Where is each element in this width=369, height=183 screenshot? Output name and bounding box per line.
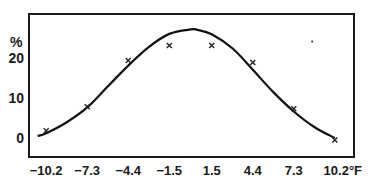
line-chart: 01020 % −10.2−7.3−4.4−1.51.54.47.310.2°F — [0, 0, 369, 183]
y-tick-label: 20 — [8, 50, 24, 66]
x-axis-ticks: −10.2−7.3−4.4−1.51.54.47.310.2°F — [30, 163, 362, 178]
x-marker-icon — [167, 43, 172, 48]
x-tick-label: −4.4 — [115, 163, 141, 178]
x-tick-label: 1.5 — [203, 163, 221, 178]
x-tick-label: −10.2 — [30, 163, 63, 178]
x-marker-icon — [209, 43, 214, 48]
stray-dot — [311, 40, 313, 42]
y-tick-label: 0 — [16, 130, 24, 146]
x-tick-label: 7.3 — [285, 163, 303, 178]
x-tick-label: −1.5 — [156, 163, 182, 178]
x-marker-icon — [126, 58, 131, 63]
x-marker-icon — [332, 138, 337, 143]
y-axis-ticks: 01020 — [8, 50, 24, 146]
x-tick-label: 10.2°F — [324, 163, 363, 178]
y-tick-label: 10 — [8, 90, 24, 106]
x-marker-icon — [250, 60, 255, 65]
plot-frame — [29, 14, 354, 157]
x-tick-label: 4.4 — [244, 163, 263, 178]
y-axis-unit-label: % — [10, 34, 23, 50]
x-tick-label: −7.3 — [74, 163, 100, 178]
annotations — [311, 40, 313, 42]
fitted-curve — [38, 29, 335, 138]
data-markers — [44, 43, 338, 142]
